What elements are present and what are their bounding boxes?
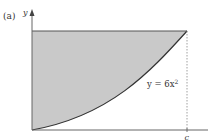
curve-label: y = 6x2 <box>146 78 179 90</box>
y-axis-label: y <box>22 8 28 17</box>
curve-label-base: y = 6x <box>146 79 175 89</box>
x-tick-label: c <box>185 133 190 140</box>
curve-label-exponent: 2 <box>175 78 179 85</box>
figure: (a) y y = 6x2 c <box>0 0 211 140</box>
panel-label: (a) <box>3 11 15 21</box>
y-axis-arrow-icon <box>30 9 35 16</box>
